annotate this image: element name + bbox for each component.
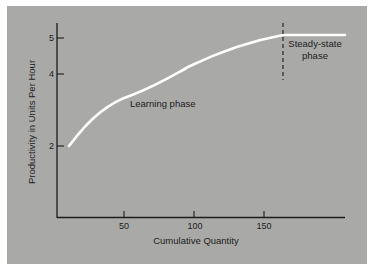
y-tick-label-4: 4 <box>49 69 54 79</box>
chart-svg: 5 4 2 50 100 150 Cumulative Quantity Pro… <box>0 0 374 274</box>
learning-phase-label: Learning phase <box>130 98 196 109</box>
steady-state-label-line1: Steady-state <box>288 38 341 49</box>
steady-state-label-line2: phase <box>302 50 328 61</box>
y-tick-label-5: 5 <box>49 33 54 43</box>
x-axis-title: Cumulative Quantity <box>153 235 239 246</box>
y-axis-title: Productivity in Units Per Hour <box>26 60 37 184</box>
x-tick-label-50: 50 <box>119 221 129 231</box>
x-tick-label-100: 100 <box>187 221 202 231</box>
x-ticks: 50 100 150 <box>119 211 272 231</box>
x-tick-label-150: 150 <box>256 221 271 231</box>
y-tick-label-2: 2 <box>49 141 54 151</box>
